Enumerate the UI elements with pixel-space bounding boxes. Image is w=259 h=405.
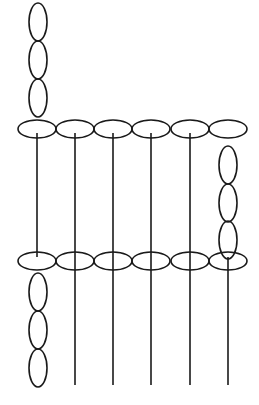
right-chain-oval bbox=[219, 146, 237, 184]
bottom-left-chain-oval bbox=[29, 349, 47, 387]
chain-diagram bbox=[0, 0, 259, 405]
right-chain-oval bbox=[219, 221, 237, 259]
bottom-left-chain-oval bbox=[29, 311, 47, 349]
right-chain-oval bbox=[219, 184, 237, 222]
top-left-chain-oval bbox=[29, 41, 47, 79]
bottom-left-chain-oval bbox=[29, 273, 47, 311]
top-row-oval bbox=[209, 120, 247, 138]
top-left-chain-oval bbox=[29, 3, 47, 41]
diagram-canvas bbox=[0, 0, 259, 405]
top-left-chain-oval bbox=[29, 79, 47, 117]
